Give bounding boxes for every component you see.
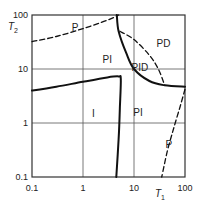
y-tick-label: 100 — [13, 10, 28, 20]
region-label-pd: PD — [157, 38, 171, 49]
region-label-pid: PID — [131, 62, 148, 73]
region-label-pi-top: PI — [103, 54, 112, 65]
y-tick-label: 0.1 — [15, 172, 28, 182]
x-tick-label: 100 — [177, 183, 192, 193]
x-tick-label: 0.1 — [26, 183, 39, 193]
y-tick-labels: 0.1110100 — [13, 10, 28, 182]
i-boundary-curve — [32, 76, 121, 177]
y-tick-label: 10 — [18, 64, 28, 74]
x-axis-label: T1 — [155, 188, 165, 201]
x-tick-label: 1 — [80, 183, 85, 193]
region-label-p-top: P — [72, 22, 79, 33]
pi-p-boundary-curve — [162, 89, 185, 177]
region-label-pi-right: PI — [133, 107, 142, 118]
region-label-p-right: P — [165, 139, 172, 150]
pi-pid-boundary-curve — [117, 15, 185, 87]
region-diagram: 0.1110100 0.1110100 PPIPDPIDIPIP T1 T2 — [0, 0, 199, 207]
x-tick-label: 10 — [129, 183, 139, 193]
x-tick-labels: 0.1110100 — [26, 183, 193, 193]
y-tick-label: 1 — [23, 118, 28, 128]
y-axis-label: T2 — [8, 21, 18, 34]
region-label-i: I — [92, 108, 95, 119]
